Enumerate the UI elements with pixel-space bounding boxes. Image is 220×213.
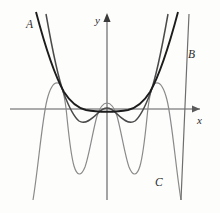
x-axis-label: x — [196, 114, 202, 126]
curve-label-C: C — [155, 176, 163, 188]
curve-B-path — [181, 14, 189, 200]
x-axis-arrow-icon — [192, 106, 200, 113]
math-graph-figure: A B C y x — [0, 0, 220, 213]
graph-canvas: A B C y x — [0, 0, 220, 213]
curve-label-B: B — [188, 48, 195, 60]
y-axis-arrow-icon — [103, 13, 110, 22]
y-axis-label: y — [94, 14, 100, 26]
axes-group — [10, 13, 200, 200]
curve-label-A: A — [25, 18, 34, 30]
